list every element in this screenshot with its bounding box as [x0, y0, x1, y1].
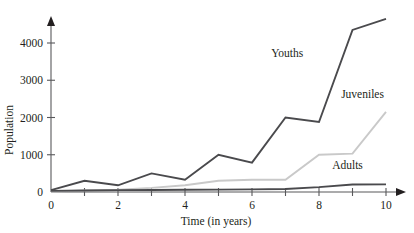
x-tick-label: 10: [380, 199, 392, 211]
x-tick-label: 8: [316, 199, 322, 211]
y-tick-label: 4000: [20, 37, 43, 49]
y-tick-label: 1000: [20, 149, 43, 161]
series-line-adults: [51, 184, 386, 191]
line-chart: 010002000300040000246810 YouthsJuveniles…: [0, 0, 414, 233]
y-axis-title: Population: [3, 105, 16, 155]
series-label-juveniles: Juveniles: [341, 88, 384, 100]
chart-canvas: 010002000300040000246810 YouthsJuveniles…: [0, 0, 414, 233]
x-tick-label: 0: [48, 199, 54, 211]
y-tick-label: 2000: [20, 112, 43, 124]
y-tick-label: 3000: [20, 74, 43, 86]
series-label-adults: Adults: [332, 159, 363, 171]
series-labels-group: YouthsJuvenilesAdults: [271, 47, 384, 171]
x-tick-label: 4: [182, 199, 188, 211]
y-tick-label: 0: [37, 186, 43, 198]
x-axis-arrowhead: [396, 188, 406, 196]
series-line-juveniles: [51, 112, 386, 192]
y-axis-arrowhead: [47, 16, 55, 26]
x-axis-title: Time (in years): [181, 215, 252, 228]
x-tick-label: 6: [249, 199, 255, 211]
x-tick-label: 2: [115, 199, 121, 211]
series-label-youths: Youths: [271, 47, 304, 59]
